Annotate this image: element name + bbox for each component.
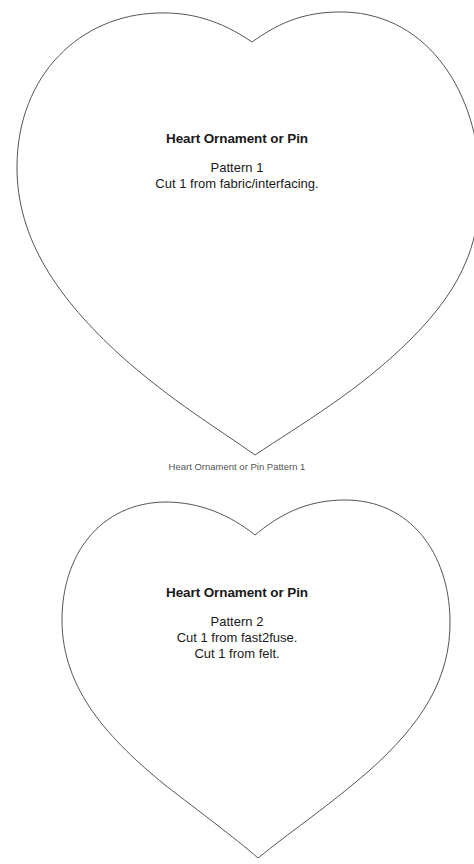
pattern-1-label-block: Heart Ornament or Pin Pattern 1 Cut 1 fr… xyxy=(0,131,474,192)
pattern-1-title: Heart Ornament or Pin xyxy=(0,131,474,146)
heart-outline-pattern-2 xyxy=(0,0,474,864)
pattern-2-number: Pattern 2 xyxy=(0,614,474,630)
pattern-1-caption: Heart Ornament or Pin Pattern 1 xyxy=(0,461,474,472)
pattern-2-label-block: Heart Ornament or Pin Pattern 2 Cut 1 fr… xyxy=(0,585,474,662)
pattern-1-instruction: Cut 1 from fabric/interfacing. xyxy=(0,176,474,192)
pattern-1-number: Pattern 1 xyxy=(0,160,474,176)
pattern-2-title: Heart Ornament or Pin xyxy=(0,585,474,600)
pattern-2-instruction-2: Cut 1 from felt. xyxy=(0,646,474,662)
pattern-2-instruction-1: Cut 1 from fast2fuse. xyxy=(0,630,474,646)
